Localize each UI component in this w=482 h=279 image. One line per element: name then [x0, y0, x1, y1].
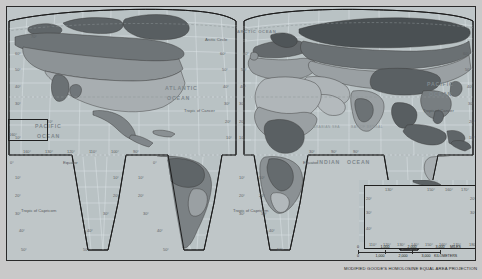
scale-miles-unit: MILES [450, 245, 461, 249]
scale-miles-tick-3000: 3,000 [436, 245, 445, 249]
scale-km-tick-0: 0 [357, 254, 359, 258]
projection-note: MODIFIED GOODE'S HOMOLOSINE EQUAL AREA P… [344, 266, 477, 271]
map-scale-bar: 0 1,000 2,000 3,000 MILES 0 1,000 2,000 … [358, 245, 476, 260]
world-map-frame: ATLANTIC OCEAN PACIFIC OCEAN PACIFIC OCE… [6, 6, 476, 261]
scale-km-unit: KILOMETERS [434, 254, 457, 258]
hawaii-inset-box [8, 119, 48, 141]
screenshot-root: ATLANTIC OCEAN PACIFIC OCEAN PACIFIC OCE… [0, 0, 482, 279]
scale-miles-tick-0: 0 [357, 245, 359, 249]
scale-miles-tick-1000: 1,000 [381, 245, 390, 249]
scale-km-tick-2000: 2,000 [399, 254, 408, 258]
scale-km-tick-1000: 1,000 [376, 254, 385, 258]
australia-inset-box [364, 185, 476, 249]
scale-miles-tick-2000: 2,000 [408, 245, 417, 249]
scale-km-tick-3000: 3,000 [422, 254, 431, 258]
